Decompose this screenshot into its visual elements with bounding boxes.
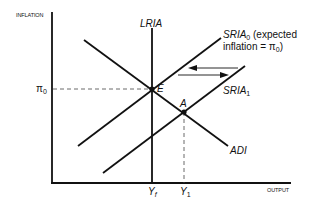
lria-label: LRIA <box>140 19 162 29</box>
point-a-label: A <box>180 99 187 109</box>
yf-tick-label: Yf <box>148 187 157 198</box>
yf-tick-text: Y <box>148 186 155 197</box>
arrowhead-right-icon <box>220 72 229 78</box>
sria0-note-line1: (expected <box>253 29 297 40</box>
adi-label: ADI <box>230 146 247 156</box>
sria0-note-line2-post: ) <box>280 41 283 52</box>
y1-tick-text: Y <box>180 186 187 197</box>
y1-tick-label: Y1 <box>180 187 191 198</box>
point-e-label: E <box>157 84 164 94</box>
sria1-label-text: SRIA <box>223 85 246 96</box>
arrowhead-left-icon <box>188 65 197 71</box>
yf-tick-sub: f <box>155 191 157 198</box>
sria1-label-sub: 1 <box>246 90 250 97</box>
point-a-marker <box>181 109 186 114</box>
sria0-note-line2-pre: inflation = π <box>223 41 276 52</box>
sria0-label-sub: 0 <box>246 34 250 41</box>
sria0-label: SRIA0 (expected <box>223 30 297 41</box>
sria1-label: SRIA1 <box>223 86 250 97</box>
pi0-tick-text: π <box>36 83 43 94</box>
pi0-tick-sub: 0 <box>43 88 47 95</box>
sria0-label-text: SRIA <box>223 29 246 40</box>
adi-line <box>84 40 228 146</box>
x-axis-label: OUTPUT <box>267 188 289 194</box>
sria0-line <box>78 38 221 146</box>
y-axis-label: INFLATION <box>16 13 43 19</box>
sria0-note-line2: inflation = π0) <box>223 42 283 53</box>
point-e-marker <box>149 86 154 91</box>
pi0-tick-label: π0 <box>36 84 47 95</box>
y1-tick-sub: 1 <box>187 191 191 198</box>
sria1-line <box>103 66 245 173</box>
